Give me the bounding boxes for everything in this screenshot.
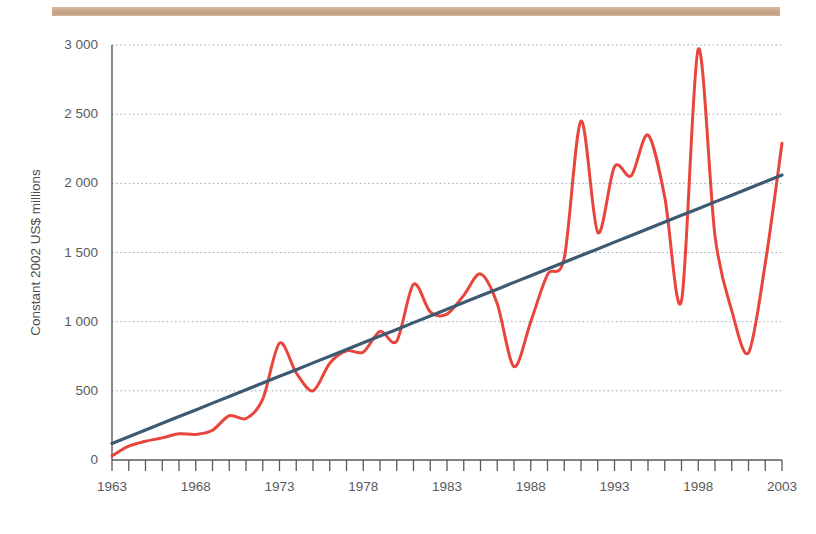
line-chart-svg: 05001 0001 5002 0002 5003 00019631968197… <box>0 22 816 534</box>
x-tick-label-1978: 1978 <box>348 479 378 494</box>
y-tick-label-2000: 2 000 <box>64 175 98 190</box>
x-tick-label-2003: 2003 <box>767 479 797 494</box>
axis-labels-group: 05001 0001 5002 0002 5003 00019631968197… <box>64 37 797 494</box>
gridlines-group <box>112 45 782 391</box>
y-tick-label-2500: 2 500 <box>64 106 98 121</box>
x-tick-label-1968: 1968 <box>181 479 211 494</box>
y-tick-label-1000: 1 000 <box>64 314 98 329</box>
y-axis-title: Constant 2002 US$ millions <box>28 169 43 336</box>
chart-figure: 05001 0001 5002 0002 5003 00019631968197… <box>0 22 816 534</box>
x-tick-label-1998: 1998 <box>683 479 713 494</box>
y-tick-label-500: 500 <box>75 383 98 398</box>
y-tick-label-3000: 3 000 <box>64 37 98 52</box>
x-tick-label-1993: 1993 <box>599 479 629 494</box>
x-tick-label-1963: 1963 <box>97 479 127 494</box>
x-tick-label-1988: 1988 <box>516 479 546 494</box>
x-axis-group <box>112 460 782 471</box>
data-series-group <box>112 49 782 456</box>
y-tick-label-0: 0 <box>90 452 98 467</box>
y-tick-label-1500: 1 500 <box>64 245 98 260</box>
chart-page: 05001 0001 5002 0002 5003 00019631968197… <box>0 0 816 534</box>
series-line-annual-value <box>112 49 782 456</box>
decorative-top-rule <box>52 7 780 16</box>
x-tick-label-1983: 1983 <box>432 479 462 494</box>
series-line-trend <box>112 175 782 443</box>
x-tick-label-1973: 1973 <box>264 479 294 494</box>
